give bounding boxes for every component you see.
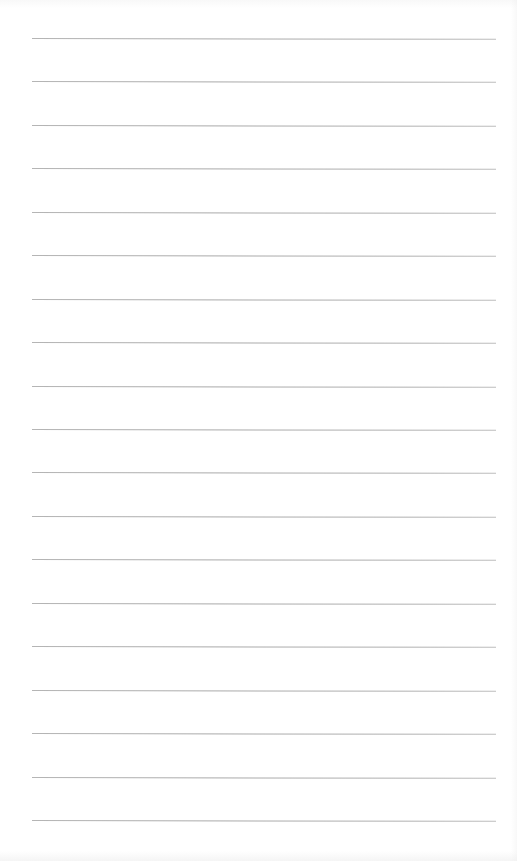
ruled-line <box>32 299 496 301</box>
ruled-line <box>32 255 496 257</box>
ruled-line <box>32 820 496 822</box>
ruled-line <box>32 646 496 648</box>
ruled-line <box>32 168 496 170</box>
scan-edge-top <box>0 0 517 8</box>
ruled-line <box>32 777 496 779</box>
ruled-line <box>32 733 496 735</box>
ruled-line <box>32 429 496 431</box>
lined-paper-page <box>0 0 517 861</box>
ruled-line <box>32 81 496 83</box>
scan-edge-bottom <box>0 851 517 861</box>
ruled-line <box>32 690 496 692</box>
ruled-line <box>32 342 496 344</box>
scan-edge-right <box>511 0 517 861</box>
ruled-line <box>32 603 496 605</box>
ruled-line <box>32 212 496 214</box>
ruled-line <box>32 472 496 474</box>
ruled-line <box>32 516 496 518</box>
ruled-line <box>32 38 496 40</box>
ruled-line <box>32 386 496 388</box>
ruled-line <box>32 559 496 561</box>
ruled-line <box>32 125 496 127</box>
